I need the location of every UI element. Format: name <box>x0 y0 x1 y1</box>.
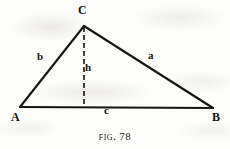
triangle-side-a-line <box>84 26 213 108</box>
triangle-side-b-line <box>20 26 84 107</box>
vertex-label-c: C <box>78 4 87 16</box>
figure-caption-prefix: Fig. <box>99 129 117 143</box>
vertex-label-a: A <box>11 111 20 123</box>
side-label-a: a <box>148 50 154 61</box>
triangle-side-c-line <box>20 107 213 108</box>
vertex-label-b: B <box>212 111 220 123</box>
figure-caption: Fig.78 <box>0 129 230 144</box>
figure-container: A B C a b c h Fig.78 <box>0 0 230 149</box>
side-label-c: c <box>104 105 109 116</box>
altitude-label-h: h <box>85 62 91 73</box>
side-label-b: b <box>37 51 43 62</box>
triangle-diagram <box>0 0 230 149</box>
figure-caption-number: 78 <box>119 130 131 142</box>
